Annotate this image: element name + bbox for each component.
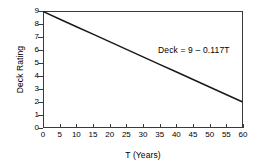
y-tick-label: 7 — [24, 33, 39, 41]
y-tick-mark — [38, 11, 43, 12]
x-tick-mark — [93, 124, 94, 128]
y-axis-tick-labels: 0123456789 — [24, 11, 39, 128]
y-tick-mark — [38, 37, 43, 38]
x-tick-label: 25 — [122, 131, 131, 139]
x-tick-mark — [43, 124, 44, 128]
y-tick-label: 8 — [24, 20, 39, 28]
y-tick-mark — [38, 24, 43, 25]
x-tick-mark — [176, 124, 177, 128]
x-tick-label: 60 — [239, 131, 248, 139]
x-tick-label: 15 — [89, 131, 98, 139]
y-tick-mark — [38, 128, 43, 129]
x-tick-mark — [210, 124, 211, 128]
y-tick-label: 5 — [24, 59, 39, 67]
x-tick-mark — [76, 124, 77, 128]
x-tick-label: 30 — [139, 131, 148, 139]
equation-annotation: Deck = 9 – 0.117T — [158, 45, 230, 55]
x-tick-mark — [160, 124, 161, 128]
plot-svg — [44, 12, 242, 127]
y-tick-mark — [38, 63, 43, 64]
y-tick-mark — [38, 76, 43, 77]
x-tick-mark — [143, 124, 144, 128]
x-tick-label: 5 — [57, 131, 61, 139]
x-tick-mark — [193, 124, 194, 128]
y-tick-mark — [38, 115, 43, 116]
x-tick-label: 50 — [205, 131, 214, 139]
chart-figure: Deck Rating 0123456789 05101520253035404… — [0, 0, 261, 168]
x-tick-label: 35 — [155, 131, 164, 139]
y-tick-mark — [38, 102, 43, 103]
x-tick-mark — [226, 124, 227, 128]
plot-area — [43, 11, 243, 128]
x-tick-mark — [60, 124, 61, 128]
y-tick-label: 4 — [24, 72, 39, 80]
x-tick-label: 55 — [222, 131, 231, 139]
x-tick-label: 10 — [72, 131, 81, 139]
x-tick-mark — [243, 124, 244, 128]
x-tick-label: 45 — [189, 131, 198, 139]
x-axis-label: T (Years) — [43, 150, 243, 160]
y-tick-label: 0 — [24, 124, 39, 132]
x-tick-label: 0 — [41, 131, 45, 139]
y-tick-label: 3 — [24, 85, 39, 93]
x-tick-label: 40 — [172, 131, 181, 139]
y-tick-label: 6 — [24, 46, 39, 54]
y-tick-label: 2 — [24, 98, 39, 106]
x-tick-mark — [110, 124, 111, 128]
data-line — [44, 12, 242, 102]
y-tick-label: 9 — [24, 7, 39, 15]
y-tick-mark — [38, 89, 43, 90]
x-axis-tick-labels: 051015202530354045505560 — [43, 131, 243, 143]
x-tick-mark — [126, 124, 127, 128]
y-tick-mark — [38, 50, 43, 51]
y-tick-label: 1 — [24, 111, 39, 119]
x-tick-label: 20 — [105, 131, 114, 139]
